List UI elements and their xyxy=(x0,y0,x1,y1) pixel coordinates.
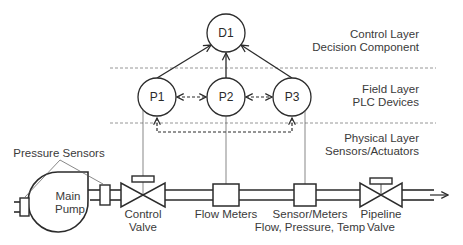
control-valve-label-line1: Control xyxy=(124,208,161,220)
flow-meters-label: Flow Meters xyxy=(195,208,258,220)
node-d1: D1 xyxy=(207,14,245,52)
layer-label-control: Control Layer Decision Component xyxy=(312,28,420,53)
layer-label-physical: Physical Layer Sensors/Actuators xyxy=(325,132,419,157)
control-valve-label-line2: Valve xyxy=(129,221,157,233)
pressure-sensor-outlet xyxy=(100,185,110,205)
architecture-diagram: Control Layer Decision Component Field L… xyxy=(0,0,463,245)
layer-control-name: Control Layer xyxy=(350,28,419,40)
pressure-sensors-label: Pressure Sensors xyxy=(13,147,105,159)
node-p2: P2 xyxy=(207,78,245,116)
node-d1-label: D1 xyxy=(218,26,234,40)
pipeline-valve-label-line1: Pipeline xyxy=(361,208,402,220)
node-p2-label: P2 xyxy=(219,90,234,104)
layer-physical-name: Physical Layer xyxy=(344,132,419,144)
layer-field-subtitle: PLC Devices xyxy=(353,96,420,108)
layer-control-subtitle: Decision Component xyxy=(312,41,420,53)
pipeline-valve-label-line2: Valve xyxy=(367,221,395,233)
edge-p1-d1 xyxy=(157,45,211,78)
node-p1: P1 xyxy=(138,78,176,116)
main-pump: Main Pump xyxy=(28,172,88,232)
edge-p3-d1 xyxy=(241,45,292,78)
node-p1-label: P1 xyxy=(150,90,165,104)
node-p3-label: P3 xyxy=(285,90,300,104)
sensor-meters-label-line1: Sensor/Meters xyxy=(273,208,348,220)
pipeline-valve-actuator xyxy=(370,178,392,184)
layer-physical-subtitle: Sensors/Actuators xyxy=(325,145,419,157)
pressure-sensor-inlet xyxy=(20,198,29,216)
sensor-meters: Sensor/Meters Flow, Pressure, Temp xyxy=(255,184,365,233)
edge-p1-p3-lower xyxy=(157,118,292,132)
control-valve-actuator xyxy=(132,176,154,182)
sensor-meters-label-line2: Flow, Pressure, Temp xyxy=(255,221,365,233)
pipeline-valve: Pipeline Valve xyxy=(360,178,402,233)
main-pump-label-line2: Pump xyxy=(55,203,85,215)
layer-field-name: Field Layer xyxy=(362,83,419,95)
main-pump-label-line1: Main xyxy=(56,190,81,202)
layer-label-field: Field Layer PLC Devices xyxy=(353,83,420,108)
